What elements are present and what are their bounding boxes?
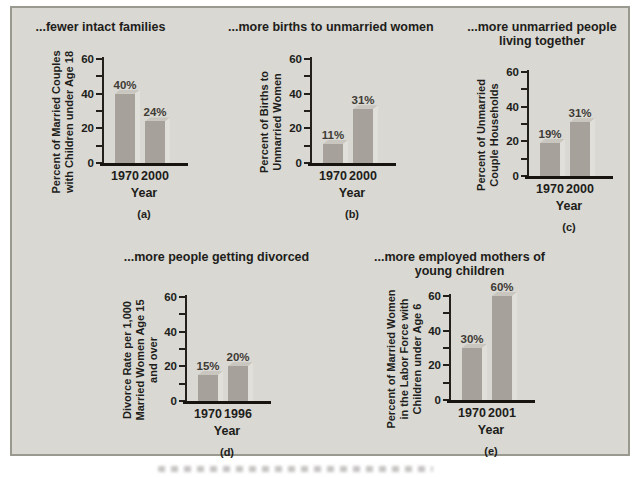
x-tick-labels: 19701996 [185,407,269,421]
bar-1970 [462,344,487,400]
y-tick-mark [96,93,102,95]
x-tick-label: 2001 [480,406,524,420]
y-tick-mark [179,365,185,367]
chart-e: ...more employed mothers ofyoung childre… [352,250,567,457]
y-tick-label: 0 [282,157,302,169]
page: { "figure": { "panel_bg": "#d9d8d3", "pa… [0,0,642,477]
y-tick-label: 20 [157,360,177,372]
y-axis-title-line: Married Women Age 15 [133,285,146,435]
y-axis-line [102,57,104,166]
y-axis-title: Divorce Rate per 1,000Married Women Age … [118,285,161,435]
bar-front-face [115,94,135,163]
y-axis-title-text: Percent of Births toUnmarried Women [258,47,284,197]
bar-front-face [570,122,590,176]
bar-side-face [135,90,140,163]
x-axis-line [447,400,535,403]
y-tick-label: 40 [499,101,519,113]
x-axis-title: Year [527,199,611,213]
y-tick-mark [521,88,527,90]
y-tick-mark [443,364,449,366]
x-axis-line [100,163,188,166]
y-tick-mark [304,93,310,95]
y-axis-title-text: Percent of Married Womenin the Labor For… [384,284,423,434]
bar-value-label: 11% [311,129,355,141]
chart-body: Percent of Births toUnmarried Women60402… [234,59,429,163]
y-tick-mark [304,127,310,129]
bar-side-face [512,292,517,400]
y-tick-mark [179,296,185,298]
bar-side-face [373,105,378,163]
y-axis-title-line: Percent of Births to [258,47,271,197]
y-axis-line [449,294,451,403]
bar-front-face [323,144,343,163]
chart-title-line: ...more births to unmarried women [228,20,423,34]
y-tick-label: 20 [499,135,519,147]
x-axis-title: Year [102,186,186,200]
bar-front-face [462,348,482,400]
bar-front-face [198,375,218,401]
plot-area: 15%20% [185,297,269,401]
chart-title-line: ...more people getting divorced [79,250,354,264]
y-tick-mark [96,75,102,77]
x-tick-labels: 19702000 [102,169,186,183]
y-tick-mark [443,382,449,384]
y-tick-label: 40 [74,88,94,100]
y-tick-mark [443,330,449,332]
bar-side-face [218,371,223,401]
chart-d: ...more people getting divorcedDivorce R… [82,250,357,458]
y-tick-mark [179,348,185,350]
y-axis-line [185,295,187,404]
y-tick-mark [521,140,527,142]
chart-title-line: ...more employed mothers of [352,250,567,264]
bar-value-label: 31% [341,94,385,106]
x-tick-label: 2000 [133,169,177,183]
cut-off-caption-artifact [158,466,433,472]
y-tick-label: 60 [74,53,94,65]
y-tick-mark [521,106,527,108]
y-tick-mark [443,295,449,297]
chart-title-line: young children [352,264,567,278]
y-tick-mark [521,123,527,125]
y-tick-label: 20 [282,122,302,134]
bar-side-face [560,139,565,176]
below-axis-block: 19701996Year(d) [185,407,357,458]
y-tick-mark [304,110,310,112]
chart-title: ...more employed mothers ofyoung childre… [352,250,567,278]
bar-side-face [248,362,253,401]
pane-caption: (b) [310,208,394,220]
y-tick-mark [304,58,310,60]
bar-value-label: 40% [103,79,147,91]
bar-front-face [492,296,512,400]
plot-area: 19%31% [527,72,611,176]
y-tick-label: 40 [157,326,177,338]
y-axis-title-line: in the Labor Force with [397,284,410,434]
bar-2000 [570,118,595,176]
y-tick-mark [304,75,310,77]
pane-caption: (c) [527,221,611,233]
bar-side-face [165,117,170,163]
x-tick-label: 1996 [216,407,260,421]
pane-caption: (d) [185,446,269,458]
y-tick-mark [179,383,185,385]
bar-1970 [198,371,223,401]
y-tick-label: 40 [282,88,302,100]
y-tick-mark [96,127,102,129]
bar-front-face [353,109,373,163]
chart-body: Percent of Married Womenin the Labor For… [352,296,567,400]
bar-2000 [145,117,170,163]
x-axis-line [183,401,271,404]
y-axis-title-text: Divorce Rate per 1,000Married Women Age … [120,285,159,435]
chart-b: ...more births to unmarried womenPercent… [234,20,429,220]
bar-side-face [343,140,348,163]
y-tick-mark [521,71,527,73]
y-axis-title: Percent of Married Womenin the Labor For… [382,284,425,434]
y-tick-label: 0 [421,394,441,406]
y-tick-label: 60 [421,290,441,302]
y-tick-label: 60 [157,291,177,303]
bar-side-face [482,344,487,400]
bar-front-face [540,143,560,176]
y-axis-title-line: Percent of Married Couples [50,47,63,197]
x-axis-line [308,163,396,166]
y-axis-title-text: Percent of Married Coupleswith Children … [50,47,76,197]
chart-title: ...more people getting divorced [79,250,354,264]
